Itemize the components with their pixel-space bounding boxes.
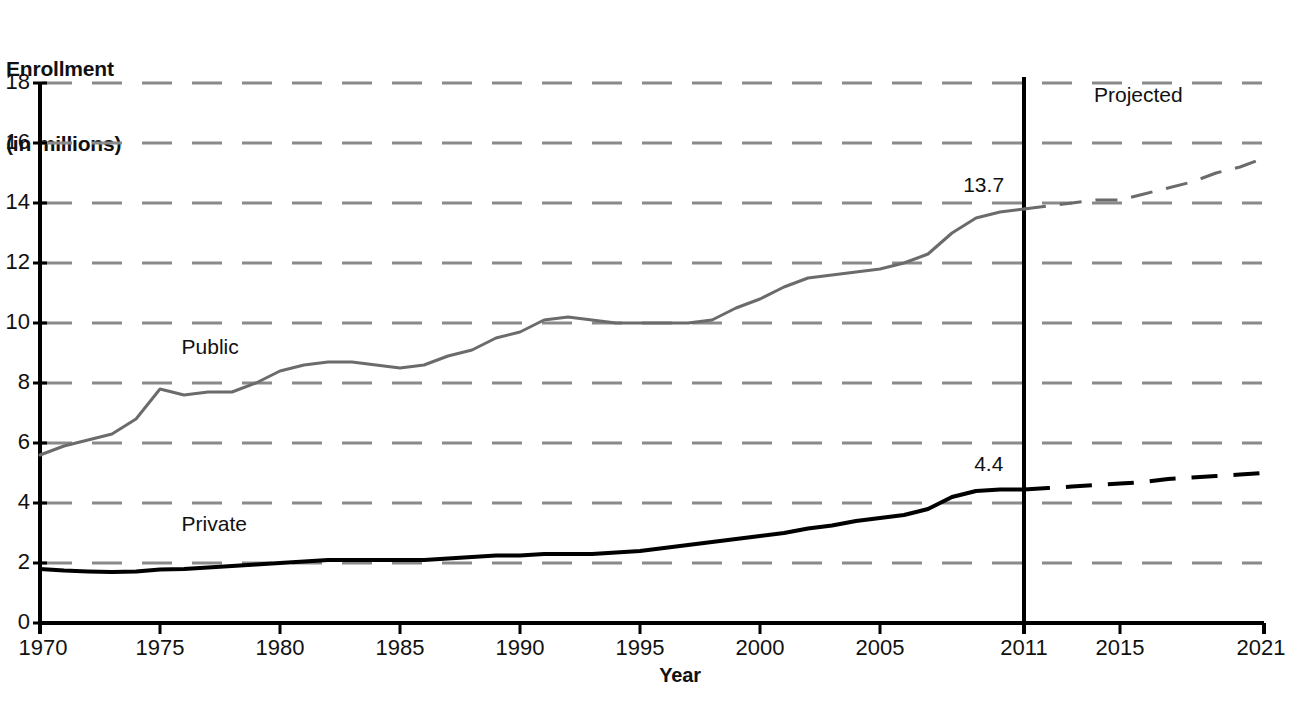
series-projected-line-public: [1024, 158, 1264, 209]
y-tick-label-2: 2: [0, 550, 30, 574]
x-tick-label-1995: 1995: [595, 636, 685, 660]
x-tick-label-2000: 2000: [715, 636, 805, 660]
series-line-public: [40, 209, 1024, 455]
y-tick-label-16: 16: [0, 130, 30, 154]
x-tick-label-2011: 2011: [979, 636, 1069, 660]
x-tick-label-1980: 1980: [235, 636, 325, 660]
x-tick-label-1985: 1985: [355, 636, 445, 660]
series-line-private: [40, 490, 1024, 573]
y-tick-label-8: 8: [0, 370, 30, 394]
x-tick-label-1975: 1975: [115, 636, 205, 660]
enrollment-line-chart: Enrollment (in millions) Year Projected …: [0, 0, 1310, 701]
x-tick-label-2015: 2015: [1075, 636, 1165, 660]
y-tick-label-6: 6: [0, 430, 30, 454]
x-tick-label-1970: 1970: [0, 636, 88, 660]
y-tick-label-18: 18: [0, 70, 30, 94]
y-tick-label-12: 12: [0, 250, 30, 274]
y-tick-label-0: 0: [0, 610, 30, 634]
series-projected-line-private: [1024, 473, 1264, 490]
x-tick-label-1990: 1990: [475, 636, 565, 660]
plot-area: [0, 0, 1310, 701]
x-tick-label-2005: 2005: [835, 636, 925, 660]
y-tick-label-14: 14: [0, 190, 30, 214]
x-tick-label-2021: 2021: [1216, 636, 1306, 660]
y-tick-label-10: 10: [0, 310, 30, 334]
y-tick-label-4: 4: [0, 490, 30, 514]
